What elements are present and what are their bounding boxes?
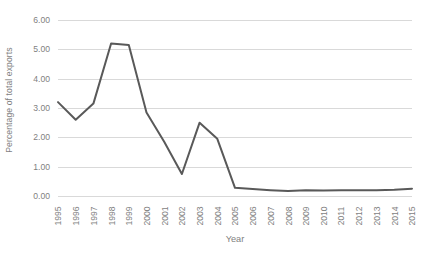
y-axis-tick-labels: 0.001.002.003.004.005.006.00 bbox=[18, 20, 54, 196]
y-axis-tick-label: 4.00 bbox=[33, 74, 50, 84]
x-axis-tick-label: 1995 bbox=[52, 198, 64, 232]
series-line-percentage-of-total-exports bbox=[58, 20, 412, 196]
x-axis-tick-label: 2009 bbox=[300, 198, 312, 232]
x-axis-tick-label-text: 1995 bbox=[53, 206, 63, 225]
gridline bbox=[58, 196, 412, 197]
x-axis-tick-label: 2008 bbox=[282, 198, 294, 232]
x-axis-tick-label-text: 1997 bbox=[88, 206, 98, 225]
x-axis-tick-label-text: 2000 bbox=[142, 206, 152, 225]
x-axis-tick-label: 1996 bbox=[70, 198, 82, 232]
x-axis-tick-label: 2003 bbox=[194, 198, 206, 232]
x-axis-tick-label: 2001 bbox=[158, 198, 170, 232]
x-axis-tick-label: 2011 bbox=[335, 198, 347, 232]
x-axis-tick-label: 2002 bbox=[176, 198, 188, 232]
plot-area bbox=[58, 20, 412, 196]
x-axis-tick-label: 1998 bbox=[105, 198, 117, 232]
y-axis-tick-label: 5.00 bbox=[33, 44, 50, 54]
x-axis-tick-label: 1997 bbox=[87, 198, 99, 232]
y-axis-tick-label: 2.00 bbox=[33, 132, 50, 142]
x-axis-tick-label: 2000 bbox=[141, 198, 153, 232]
y-axis-tick-label: 6.00 bbox=[33, 15, 50, 25]
x-axis-tick-label-text: 2015 bbox=[407, 206, 417, 225]
x-axis-tick-label-text: 1999 bbox=[124, 206, 134, 225]
y-axis-tick-label: 0.00 bbox=[33, 191, 50, 201]
x-axis-tick-label-text: 1996 bbox=[71, 206, 81, 225]
x-axis-tick-label-text: 2014 bbox=[389, 206, 399, 225]
y-axis-tick-label: 1.00 bbox=[33, 162, 50, 172]
x-axis-tick-label-text: 2001 bbox=[159, 206, 169, 225]
x-axis-tick-label-text: 2012 bbox=[354, 206, 364, 225]
x-axis-tick-label: 2013 bbox=[371, 198, 383, 232]
x-axis-tick-label-text: 2011 bbox=[336, 207, 346, 225]
x-axis-tick-label: 2010 bbox=[318, 198, 330, 232]
x-axis-tick-label-text: 2003 bbox=[195, 206, 205, 225]
x-axis-tick-label-text: 2013 bbox=[372, 206, 382, 225]
x-axis-tick-label-text: 2008 bbox=[283, 206, 293, 225]
x-axis-tick-label: 2015 bbox=[406, 198, 418, 232]
x-axis-tick-label-text: 2005 bbox=[230, 206, 240, 225]
x-axis-tick-label: 2004 bbox=[211, 198, 223, 232]
x-axis-tick-label-text: 2002 bbox=[177, 206, 187, 225]
x-axis-title-label: Year bbox=[226, 234, 245, 244]
x-axis-tick-label-text: 2004 bbox=[212, 206, 222, 225]
x-axis-title: Year bbox=[58, 234, 412, 244]
y-axis-tick-label: 3.00 bbox=[33, 103, 50, 113]
y-axis-title: Percentage of total exports bbox=[0, 0, 18, 200]
x-axis-tick-label-text: 2009 bbox=[301, 206, 311, 225]
x-axis-tick-labels: 1995199619971998199920002001200220032004… bbox=[58, 198, 412, 234]
x-axis-tick-label: 1999 bbox=[123, 198, 135, 232]
y-axis-title-label: Percentage of total exports bbox=[4, 47, 14, 152]
x-axis-tick-label: 2014 bbox=[388, 198, 400, 232]
x-axis-tick-label: 2005 bbox=[229, 198, 241, 232]
x-axis-tick-label: 2012 bbox=[353, 198, 365, 232]
series-polyline bbox=[58, 43, 412, 191]
x-axis-tick-label: 2007 bbox=[264, 198, 276, 232]
x-axis-tick-label-text: 2007 bbox=[265, 206, 275, 225]
line-chart: Percentage of total exports 0.001.002.00… bbox=[0, 0, 424, 258]
x-axis-tick-label-text: 2010 bbox=[319, 206, 329, 225]
x-axis-tick-label-text: 2006 bbox=[248, 206, 258, 225]
x-axis-tick-label: 2006 bbox=[247, 198, 259, 232]
x-axis-tick-label-text: 1998 bbox=[106, 206, 116, 225]
